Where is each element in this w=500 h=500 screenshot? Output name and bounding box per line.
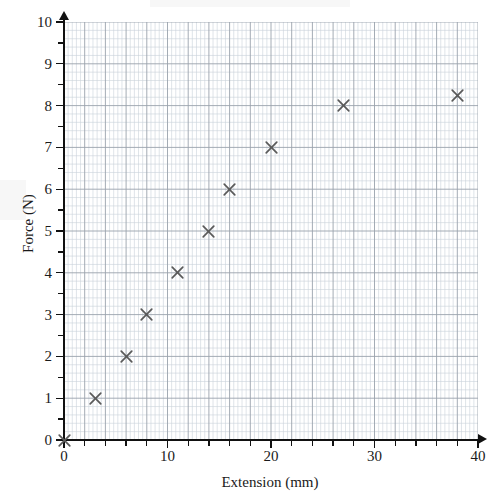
x-axis-tick-label: 0 bbox=[44, 449, 84, 464]
y-axis-major-tick bbox=[56, 314, 64, 315]
major-gridlines bbox=[64, 22, 478, 440]
x-axis-tick-label: 40 bbox=[458, 449, 498, 464]
x-axis-minor-tick bbox=[125, 440, 126, 446]
scatter-graph-page: 010203040012345678910 Extension (mm) For… bbox=[0, 0, 500, 500]
x-axis-minor-tick bbox=[84, 440, 85, 446]
y-axis-minor-tick bbox=[58, 168, 64, 169]
y-axis-minor-tick bbox=[58, 209, 64, 210]
x-axis-major-tick bbox=[374, 440, 375, 448]
y-axis-tick-label: 8 bbox=[20, 99, 52, 114]
y-axis-minor-tick bbox=[58, 335, 64, 336]
x-axis-minor-tick bbox=[312, 440, 313, 446]
x-axis-minor-tick bbox=[146, 440, 147, 446]
x-axis-minor-tick bbox=[229, 440, 230, 446]
y-axis-tick-label: 0 bbox=[20, 433, 52, 448]
y-axis-major-tick bbox=[56, 189, 64, 190]
y-axis-tick-label: 2 bbox=[20, 349, 52, 364]
y-axis-major-tick bbox=[56, 21, 64, 22]
minor-gridlines bbox=[64, 22, 478, 440]
x-axis-minor-tick bbox=[291, 440, 292, 446]
x-axis-minor-tick bbox=[436, 440, 437, 446]
y-axis-major-tick bbox=[56, 356, 64, 357]
y-axis-minor-tick bbox=[58, 377, 64, 378]
x-axis-minor-tick bbox=[105, 440, 106, 446]
y-axis-minor-tick bbox=[58, 293, 64, 294]
y-axis-minor-tick bbox=[58, 126, 64, 127]
x-axis-minor-tick bbox=[188, 440, 189, 446]
x-axis-minor-tick bbox=[457, 440, 458, 446]
x-axis-tick-label: 20 bbox=[251, 449, 291, 464]
x-axis-major-tick bbox=[477, 440, 478, 448]
y-axis-tick-label: 1 bbox=[20, 391, 52, 406]
x-axis-minor-tick bbox=[415, 440, 416, 446]
y-axis-major-tick bbox=[56, 105, 64, 106]
y-axis-arrow-icon bbox=[59, 11, 69, 20]
scan-artifact bbox=[150, 0, 350, 7]
x-axis-major-tick bbox=[63, 440, 64, 448]
y-axis-minor-tick bbox=[58, 42, 64, 43]
y-axis-minor-tick bbox=[58, 418, 64, 419]
y-axis-title: Force (N) bbox=[20, 174, 37, 274]
x-axis-minor-tick bbox=[250, 440, 251, 446]
x-axis-major-tick bbox=[167, 440, 168, 448]
x-axis-title: Extension (mm) bbox=[180, 474, 360, 491]
y-axis-minor-tick bbox=[58, 251, 64, 252]
y-axis-tick-label: 10 bbox=[20, 15, 52, 30]
x-axis-minor-tick bbox=[395, 440, 396, 446]
x-axis-arrow-icon bbox=[478, 434, 487, 444]
y-axis-tick-label: 7 bbox=[20, 140, 52, 155]
x-axis-tick-label: 10 bbox=[148, 449, 188, 464]
y-axis-tick-label: 9 bbox=[20, 57, 52, 72]
y-axis-minor-tick bbox=[58, 84, 64, 85]
y-axis-major-tick bbox=[56, 147, 64, 148]
y-axis-major-tick bbox=[56, 439, 64, 440]
y-axis-major-tick bbox=[56, 272, 64, 273]
y-axis-tick-label: 3 bbox=[20, 308, 52, 323]
x-axis-minor-tick bbox=[208, 440, 209, 446]
x-axis-minor-tick bbox=[353, 440, 354, 446]
y-axis-major-tick bbox=[56, 398, 64, 399]
x-axis-tick-label: 30 bbox=[355, 449, 395, 464]
x-axis-major-tick bbox=[270, 440, 271, 448]
y-axis-major-tick bbox=[56, 63, 64, 64]
plot-area bbox=[64, 22, 478, 440]
x-axis-minor-tick bbox=[332, 440, 333, 446]
y-axis-major-tick bbox=[56, 230, 64, 231]
